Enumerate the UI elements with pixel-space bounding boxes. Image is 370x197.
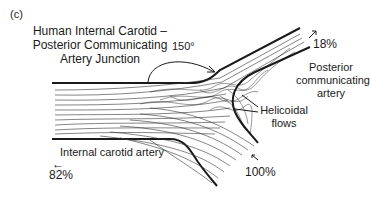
helicoidal-leader-1: [242, 95, 258, 107]
pcom-label: Posterior communicating artery: [296, 61, 366, 100]
helicoidal-leader-2: [235, 109, 258, 112]
title-line-1: Human Internal Carotid –: [30, 24, 170, 38]
title-line-3: Artery Junction: [30, 52, 170, 66]
pcom-label-line-3: artery: [296, 87, 366, 100]
pcom-label-line-1: Posterior: [296, 61, 366, 74]
title-line-2: Posterior Communicating: [30, 38, 170, 52]
panel-label: (c): [10, 8, 23, 20]
angle-label: 150°: [172, 40, 195, 52]
diagram-title: Human Internal Carotid – Posterior Commu…: [30, 24, 170, 66]
helicoidal-label: Helicoidal flows: [258, 104, 310, 130]
inflow-arrow: [252, 155, 258, 160]
ica-outflow-percent: 82%: [49, 169, 73, 181]
pcom-label-line-2: communicating: [296, 74, 366, 87]
helicoidal-label-line-2: flows: [258, 117, 310, 130]
pcom-outflow-percent: 18%: [313, 38, 337, 50]
ica-label: Internal carotid artery: [60, 146, 164, 158]
inflow-percent: 100%: [245, 166, 276, 178]
helicoidal-label-line-1: Helicoidal: [258, 104, 310, 117]
